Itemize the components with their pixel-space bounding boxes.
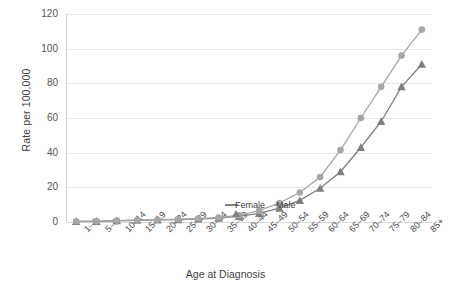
data-point-circle (358, 115, 365, 122)
data-point-triangle (418, 60, 426, 68)
data-point-circle (215, 214, 222, 221)
data-point-circle (93, 218, 100, 225)
data-point-circle (175, 216, 182, 223)
data-point-circle (73, 218, 80, 225)
data-point-triangle (377, 117, 385, 125)
data-point-circle (154, 216, 161, 223)
x-axis-title: Age at Diagnosis (0, 268, 451, 280)
chart-legend: Female Male (223, 199, 298, 211)
series-line-female (76, 64, 422, 221)
data-point-circle (419, 26, 426, 33)
legend-label-male: Male (276, 200, 296, 210)
data-point-circle (297, 189, 304, 196)
data-point-circle (337, 147, 344, 154)
data-point-circle (378, 84, 385, 91)
series-line-male (76, 30, 422, 222)
data-point-circle (195, 215, 202, 222)
line-chart: Rate per 100,000 020406080100120 1–45–91… (0, 0, 451, 292)
data-point-circle (114, 217, 121, 224)
legend-item-female[interactable]: Female (225, 200, 265, 210)
legend-item-male[interactable]: Male (274, 200, 296, 210)
data-point-circle (398, 52, 405, 59)
triangle-icon (232, 200, 240, 210)
data-point-circle (134, 217, 141, 224)
series-plot (0, 0, 451, 292)
data-point-circle (317, 174, 324, 181)
